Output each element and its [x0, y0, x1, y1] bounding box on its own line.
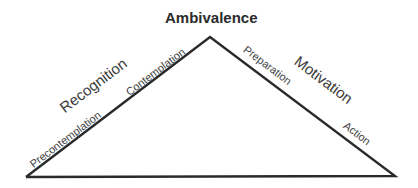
apex-label-ambivalence: Ambivalence	[165, 10, 258, 25]
stages-of-change-diagram: Ambivalence Recognition Precontemplation…	[0, 0, 418, 188]
triangle-outline	[26, 37, 395, 177]
